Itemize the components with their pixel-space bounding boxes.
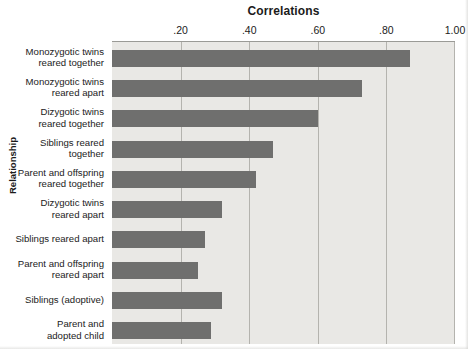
bar (112, 231, 205, 248)
category-label: Dizygotic twinsreared apart (0, 197, 104, 220)
y-axis-category-labels: Monozygotic twinsreared togetherMonozygo… (0, 41, 108, 344)
category-label-line: together (0, 148, 104, 159)
bar (112, 262, 198, 279)
bar (112, 171, 256, 188)
bars-container (112, 42, 455, 344)
x-tick-label: .20 (173, 24, 188, 36)
category-label-line: reared apart (0, 269, 104, 280)
category-label-line: reared together (0, 178, 104, 189)
category-label-line: Parent and (0, 318, 104, 329)
category-label-line: Siblings reared (0, 137, 104, 148)
x-tick-label: .80 (379, 24, 394, 36)
category-label: Siblings rearedtogether (0, 137, 104, 160)
bar (112, 110, 318, 127)
category-label-line: reared together (0, 57, 104, 68)
category-label-line: reared apart (0, 209, 104, 220)
bar (112, 292, 222, 309)
x-axis-tick-labels: .20.40.60.801.00 (0, 24, 468, 38)
category-label: Parent and offspringreared together (0, 167, 104, 190)
x-tick-label: .40 (242, 24, 257, 36)
category-label-line: Parent and offspring (0, 167, 104, 178)
category-label-line: Siblings reared apart (0, 233, 104, 244)
category-label: Monozygotic twinsreared apart (0, 76, 104, 99)
category-label-line: Parent and offspring (0, 258, 104, 269)
x-tick-label: .60 (310, 24, 325, 36)
x-tick-label: 1.00 (445, 24, 465, 36)
category-label-line: Monozygotic twins (0, 76, 104, 87)
bar (112, 322, 211, 339)
bar (112, 80, 362, 97)
category-label-line: Siblings (adoptive) (0, 294, 104, 305)
category-label: Parent and offspringreared apart (0, 258, 104, 281)
category-label: Siblings reared apart (0, 233, 104, 244)
category-label-line: Dizygotic twins (0, 106, 104, 117)
category-label-line: reared together (0, 118, 104, 129)
bar (112, 50, 410, 67)
category-label: Parent andadopted child (0, 318, 104, 341)
category-label-line: Dizygotic twins (0, 197, 104, 208)
plot-area (112, 41, 455, 344)
category-label: Siblings (adoptive) (0, 294, 104, 305)
category-label: Monozygotic twinsreared together (0, 46, 104, 69)
category-label: Dizygotic twinsreared together (0, 106, 104, 129)
bar (112, 201, 222, 218)
chart-title: Correlations (112, 4, 455, 18)
bar (112, 141, 273, 158)
category-label-line: Monozygotic twins (0, 46, 104, 57)
category-label-line: reared apart (0, 87, 104, 98)
correlations-bar-chart: Correlations Relationship .20.40.60.801.… (0, 0, 468, 349)
category-label-line: adopted child (0, 330, 104, 341)
